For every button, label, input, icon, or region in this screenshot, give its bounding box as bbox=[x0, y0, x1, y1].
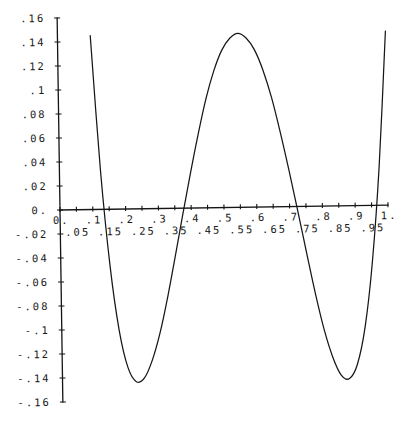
x-tick-label: .9 bbox=[348, 209, 365, 221]
x-tick-label: .35 bbox=[164, 224, 189, 236]
x-tick-label: .1 bbox=[86, 213, 103, 225]
x-tick-label: .05 bbox=[65, 226, 90, 238]
x-tick-label: .25 bbox=[131, 225, 156, 237]
line-chart: .16.14.12.1.08.06.04.020.-.02-.04-.06-.0… bbox=[0, 0, 410, 427]
x-tick-label: .45 bbox=[196, 224, 221, 236]
x-tick-label: .85 bbox=[328, 222, 353, 234]
y-tick-label: -.08 bbox=[16, 300, 49, 312]
y-tick-label: -.06 bbox=[16, 276, 49, 288]
y-tick-label: .12 bbox=[21, 60, 46, 72]
x-tick-label: .7 bbox=[282, 210, 299, 222]
y-tick-label: -.16 bbox=[17, 396, 50, 408]
x-tick-label: .4 bbox=[184, 212, 201, 224]
x-tick-label: .65 bbox=[262, 223, 287, 235]
y-tick-label: .14 bbox=[20, 36, 45, 48]
y-tick-label: -.12 bbox=[17, 348, 50, 360]
y-tick-label: .1 bbox=[29, 84, 46, 96]
y-tick-label: -.1 bbox=[25, 324, 50, 336]
y-tick-label: -.14 bbox=[17, 372, 50, 384]
x-tick-label: .2 bbox=[118, 213, 135, 225]
x-tick-label: 1. bbox=[381, 209, 398, 221]
y-tick-label: .16 bbox=[20, 12, 45, 24]
x-tick-label: .75 bbox=[295, 222, 320, 234]
y-tick-label: -.04 bbox=[15, 252, 48, 264]
x-tick-label: .15 bbox=[98, 225, 123, 237]
y-tick-label: -.02 bbox=[15, 228, 48, 240]
x-tick-label: .5 bbox=[217, 211, 234, 223]
y-tick-label: .04 bbox=[22, 156, 47, 168]
y-tick-label: .08 bbox=[22, 108, 47, 120]
y-tick-label: .02 bbox=[23, 180, 48, 192]
x-tick-label: .55 bbox=[229, 223, 254, 235]
x-tick-label: .95 bbox=[360, 221, 385, 233]
x-tick-label: .3 bbox=[151, 212, 168, 224]
plot-area: .16.14.12.1.08.06.04.020.-.02-.04-.06-.0… bbox=[12, 7, 400, 409]
y-tick-label: .06 bbox=[22, 132, 47, 144]
y-tick-label: 0. bbox=[31, 204, 48, 216]
x-tick-label: .8 bbox=[315, 210, 332, 222]
x-tick-label: 0. bbox=[53, 214, 70, 226]
x-tick-label: .6 bbox=[250, 211, 267, 223]
